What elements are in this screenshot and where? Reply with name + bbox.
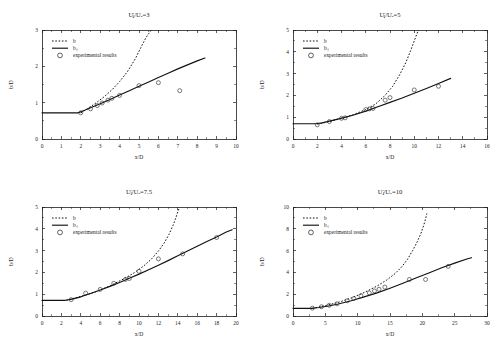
legend-label: bₛ (324, 45, 329, 51)
curve-bs (42, 58, 205, 113)
y-axis-label: b/D (259, 80, 265, 88)
y-tick-label: 0 (286, 136, 289, 142)
figure-multi-panel: Uⱼ/Uₐ=30123456789100123x/Db/Dbbₛexperime… (0, 0, 501, 354)
y-tick-label: 10 (283, 204, 289, 210)
x-tick-label: 10 (136, 320, 142, 326)
y-tick-label: 1 (286, 114, 289, 120)
x-tick-label: 15 (387, 320, 393, 326)
legend-label: bₛ (73, 222, 78, 228)
plot-frame (42, 30, 236, 139)
x-axis-label: x/D (385, 331, 393, 337)
x-tick-label: 18 (214, 320, 220, 326)
legend: bbₛexperimental results (303, 38, 368, 58)
legend-swatch-experimental (308, 230, 313, 235)
panel-uj-ua-10: Uⱼ/Uₐ=100510152025300246810x/Db/Dbbₛexpe… (251, 177, 501, 354)
x-tick-label: 5 (323, 320, 326, 326)
data-point-marker (423, 277, 427, 281)
y-tick-label: 3 (286, 71, 289, 77)
legend-label: b (73, 38, 76, 44)
x-tick-label: 10 (411, 143, 417, 149)
x-tick-label: 8 (388, 143, 391, 149)
x-tick-label: 6 (364, 143, 367, 149)
x-tick-label: 7 (176, 143, 179, 149)
x-axis-label: x/D (385, 154, 393, 160)
curve-b (81, 30, 152, 113)
x-tick-label: 3 (99, 143, 102, 149)
data-point-marker (367, 291, 371, 295)
y-tick-label: 4 (286, 49, 289, 55)
legend: bbₛexperimental results (303, 215, 368, 235)
x-tick-label: 0 (291, 143, 294, 149)
data-point-marker (388, 96, 392, 100)
curve-bs (293, 78, 451, 123)
y-tick-label: 2 (286, 92, 289, 98)
legend-label: experimental results (73, 52, 117, 58)
x-axis-label: x/D (135, 154, 143, 160)
y-tick-label: 0 (35, 313, 38, 319)
y-axis-label: b/D (8, 257, 14, 265)
y-tick-label: 0 (35, 136, 38, 142)
data-point-marker (383, 98, 387, 102)
data-point-marker (382, 285, 386, 289)
x-tick-label: 2 (60, 320, 63, 326)
x-tick-label: 14 (460, 143, 466, 149)
data-point-marker (178, 89, 182, 93)
legend-swatch-experimental (308, 53, 313, 58)
legend-label: experimental results (324, 52, 368, 58)
y-tick-label: 2 (286, 291, 289, 297)
x-tick-label: 20 (233, 320, 239, 326)
panel-title: Uⱼ/Uₐ=3 (128, 11, 150, 18)
legend-label: b (324, 215, 327, 221)
legend-swatch-experimental (58, 53, 63, 58)
y-tick-label: 4 (286, 269, 289, 275)
x-tick-label: 14 (175, 320, 181, 326)
x-tick-label: 8 (196, 143, 199, 149)
panel-title: Uⱼ/Uₐ=7.5 (126, 188, 153, 195)
x-tick-label: 2 (315, 143, 318, 149)
y-axis-label: b/D (8, 80, 14, 88)
curve-bs (293, 258, 471, 309)
legend-label: experimental results (324, 229, 368, 235)
x-tick-label: 0 (291, 320, 294, 326)
x-tick-label: 1 (60, 143, 63, 149)
data-point-marker (412, 88, 416, 92)
x-tick-label: 0 (41, 320, 44, 326)
legend-swatch-experimental (58, 230, 63, 235)
x-tick-label: 12 (156, 320, 162, 326)
y-tick-label: 5 (286, 27, 289, 33)
x-tick-label: 12 (435, 143, 441, 149)
x-tick-label: 0 (41, 143, 44, 149)
data-point-marker (377, 287, 381, 291)
y-tick-label: 2 (35, 269, 38, 275)
legend: bbₛexperimental results (52, 215, 117, 235)
curve-b (66, 208, 179, 300)
legend-label: bₛ (324, 222, 329, 228)
y-tick-label: 3 (35, 248, 38, 254)
x-tick-label: 20 (419, 320, 425, 326)
y-tick-label: 0 (286, 313, 289, 319)
legend-label: bₛ (73, 45, 78, 51)
x-axis-label: x/D (135, 331, 143, 337)
x-tick-label: 6 (99, 320, 102, 326)
data-point-marker (156, 257, 160, 261)
x-tick-label: 4 (118, 143, 121, 149)
panel-title: Uⱼ/Uₐ=5 (379, 11, 401, 18)
panel-title: Uⱼ/Uₐ=10 (377, 188, 402, 195)
y-tick-label: 2 (35, 63, 38, 69)
legend-label: b (73, 215, 76, 221)
legend-label: experimental results (73, 229, 117, 235)
y-tick-label: 5 (35, 204, 38, 210)
y-tick-label: 1 (35, 291, 38, 297)
x-tick-label: 8 (118, 320, 121, 326)
y-tick-label: 6 (286, 248, 289, 254)
panel-uj-ua-7-5: Uⱼ/Uₐ=7.502468101214161820012345x/Db/Dbb… (0, 177, 250, 354)
x-tick-label: 30 (484, 320, 490, 326)
x-tick-label: 10 (233, 143, 239, 149)
data-point-marker (372, 289, 376, 293)
panel-uj-ua-3: Uⱼ/Uₐ=30123456789100123x/Db/Dbbₛexperime… (0, 0, 250, 177)
panel-uj-ua-5: Uⱼ/Uₐ=50246810121416012345x/Db/Dbbₛexper… (251, 0, 501, 177)
x-tick-label: 16 (484, 143, 490, 149)
x-tick-label: 2 (79, 143, 82, 149)
data-point-marker (156, 81, 160, 85)
x-tick-label: 16 (195, 320, 201, 326)
